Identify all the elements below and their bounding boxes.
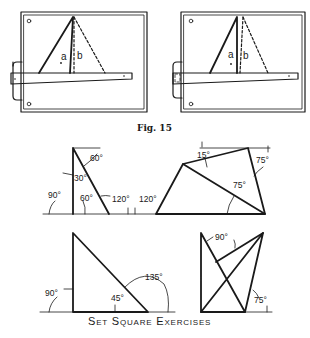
exercises-title: Set Square Exercises xyxy=(88,315,211,327)
angle-label: 120° xyxy=(112,194,130,204)
angle-label: 90° xyxy=(45,288,58,298)
drawing-board-left: a b xyxy=(11,12,147,112)
angle-label: 90° xyxy=(48,190,61,200)
angle-label: 45° xyxy=(111,293,124,303)
exercise-4: 90° 75° xyxy=(201,232,272,312)
exercise-1: 60° 30° 90° 60° 120° 120° xyxy=(43,148,160,214)
angle-label: 60° xyxy=(80,193,93,203)
angle-label: 90° xyxy=(215,232,228,242)
angle-label: 15° xyxy=(197,150,210,160)
angle-label: 60° xyxy=(90,153,103,163)
angle-label: 75° xyxy=(233,180,246,190)
angle-label: 120° xyxy=(139,194,157,204)
label-b-left: b xyxy=(77,50,83,61)
drawing-board-right: a b xyxy=(173,12,305,112)
angle-label: 135° xyxy=(145,272,163,282)
angle-label: 75° xyxy=(256,155,269,165)
label-a-left: a xyxy=(61,51,67,62)
figure-drawing: a b a b 60° 30° 90° 60° 120° xyxy=(0,0,310,338)
exercise-3: 90° 45° 135° xyxy=(40,233,175,312)
label-b-right: b xyxy=(243,50,249,61)
label-a-right: a xyxy=(228,49,234,60)
angle-label: 75° xyxy=(254,295,267,305)
figure-caption: Fig. 15 xyxy=(137,123,172,133)
exercise-2: 15° 75° 75° xyxy=(156,142,270,214)
angle-label: 30° xyxy=(74,173,87,183)
